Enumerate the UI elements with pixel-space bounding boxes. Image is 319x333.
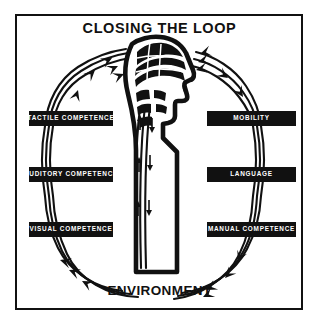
node-manual-competence[interactable]: MANUAL COMPETENCE (207, 222, 296, 237)
edge-group-right-spine (253, 126, 264, 196)
arrowheads-right-upper (195, 46, 247, 100)
human-profile-figure (125, 37, 194, 272)
environment-label: ENVIRONMENT (0, 283, 319, 298)
figure-root: CLOSING THE LOOP TACTILE COMPETENCE AUDI… (0, 0, 319, 333)
node-language[interactable]: LANGUAGE (207, 167, 296, 182)
page-title: CLOSING THE LOOP (0, 20, 319, 36)
node-tactile-competence[interactable]: TACTILE COMPETENCE (29, 111, 113, 126)
node-auditory-competence[interactable]: AUDITORY COMPETENCE (29, 167, 113, 182)
node-mobility[interactable]: MOBILITY (207, 111, 296, 126)
edge-group-left-spine (42, 126, 53, 196)
node-visual-competence[interactable]: VISUAL COMPETENCE (29, 222, 113, 237)
